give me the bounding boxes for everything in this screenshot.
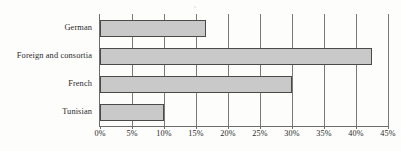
x-axis-tick-label: 10% [156, 129, 171, 138]
x-axis-tick-label: 20% [220, 129, 235, 138]
x-axis-tick-label: 5% [126, 129, 137, 138]
gridline [388, 14, 389, 126]
x-axis-tick-label: 35% [316, 129, 331, 138]
bar [100, 76, 292, 93]
plot-area [100, 14, 388, 126]
x-axis-tick-labels: 0%5%10%15%20%25%30%35%40%45% [100, 129, 388, 143]
scan-artifact-speck [194, 6, 196, 8]
category-axis-labels: GermanForeign and consortiaFrenchTunisia… [0, 14, 96, 126]
category-label: French [0, 79, 92, 89]
bar-chart: GermanForeign and consortiaFrenchTunisia… [0, 0, 401, 151]
x-axis-tick-label: 0% [94, 129, 105, 138]
gridline [324, 14, 325, 126]
category-label: German [0, 23, 92, 33]
x-axis-tick-label: 30% [284, 129, 299, 138]
x-axis-tick-label: 25% [252, 129, 267, 138]
x-axis-tick-label: 40% [348, 129, 363, 138]
gridline [228, 14, 229, 126]
bar [100, 48, 372, 65]
gridline [292, 14, 293, 126]
gridline [260, 14, 261, 126]
x-axis-tick-label: 45% [380, 129, 395, 138]
category-label: Foreign and consortia [0, 51, 92, 61]
bar [100, 20, 206, 37]
category-label: Tunisian [0, 107, 92, 117]
x-axis-line [99, 126, 389, 127]
x-axis-tick-label: 15% [188, 129, 203, 138]
gridline [356, 14, 357, 126]
bar [100, 104, 164, 121]
